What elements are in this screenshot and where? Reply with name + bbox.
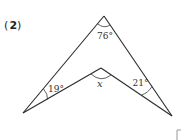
problem-close-paren: ) — [17, 19, 21, 32]
answer-bracket — [177, 130, 181, 140]
left-angle-label: 19° — [48, 84, 64, 94]
edge-inner-right — [101, 68, 172, 116]
problem-open-paren: ( — [4, 19, 8, 32]
edge-apex-left — [23, 16, 104, 113]
right-angle-label: 21° — [133, 78, 149, 88]
edge-apex-right — [104, 16, 172, 116]
inner-angle-label: x — [97, 78, 103, 89]
problem-number: 2 — [10, 19, 18, 32]
geometry-figure: ( 2 ) 76° 19° x 21° — [0, 0, 186, 140]
apex-angle-label: 76° — [97, 31, 113, 41]
apex-angle-arc — [98, 24, 111, 27]
left-angle-arc — [44, 89, 48, 100]
